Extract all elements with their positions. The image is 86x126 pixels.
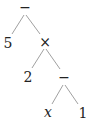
edge-root-to-5 [12, 15, 24, 34]
node-minus: − [58, 70, 70, 84]
node-root-minus: − [19, 0, 31, 14]
edge-minus-to-1 [65, 85, 78, 104]
tree-edges [0, 0, 86, 126]
node-5: 5 [4, 36, 13, 50]
node-x: x [44, 105, 52, 119]
edge-minus-to-x [52, 85, 63, 104]
node-2: 2 [24, 70, 33, 84]
edge-times-to-minus [46, 49, 60, 69]
node-times: × [39, 35, 51, 49]
edge-times-to-2 [32, 49, 44, 68]
node-1: 1 [79, 106, 86, 120]
edge-root-to-times [26, 15, 40, 34]
